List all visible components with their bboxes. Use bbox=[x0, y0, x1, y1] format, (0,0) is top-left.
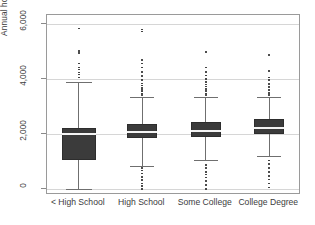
outlier-point bbox=[78, 67, 80, 69]
outlier-point-low bbox=[268, 179, 270, 181]
outlier-point-low bbox=[141, 185, 143, 187]
boxplot-figure: Annual hours worked by education 02,0004… bbox=[0, 0, 315, 225]
whisker-cap-low bbox=[194, 160, 218, 161]
x-tick-label-4: College Degree bbox=[231, 197, 307, 207]
outlier-point-low bbox=[268, 171, 270, 173]
outlier-point bbox=[268, 89, 270, 91]
y-tick-text: 4,000 bbox=[19, 65, 28, 86]
median-line bbox=[127, 131, 157, 133]
outlier-point-low bbox=[141, 173, 143, 175]
outlier-point bbox=[141, 75, 143, 77]
outlier-point bbox=[268, 70, 270, 72]
outlier-point-low bbox=[205, 164, 207, 166]
y-tick-label-4000: 4,000 bbox=[6, 71, 40, 80]
outlier-point bbox=[205, 88, 207, 90]
outlier-point bbox=[141, 89, 143, 91]
boxplot-4 bbox=[238, 15, 302, 193]
outlier-point bbox=[141, 87, 143, 89]
outlier-point-low bbox=[141, 167, 143, 169]
outlier-point bbox=[141, 67, 143, 69]
outlier-point bbox=[141, 79, 143, 81]
outlier-point-low bbox=[205, 180, 207, 182]
outlier-point bbox=[205, 94, 207, 96]
outlier-point bbox=[141, 63, 143, 65]
outlier-point bbox=[141, 83, 143, 85]
boxplot-3 bbox=[174, 15, 238, 193]
outlier-point-low bbox=[141, 183, 143, 185]
outlier-point bbox=[268, 79, 270, 81]
outlier-point bbox=[78, 72, 80, 74]
y-tick-label-2000: 2,000 bbox=[6, 126, 40, 135]
boxplot-1 bbox=[47, 15, 111, 193]
outlier-point bbox=[268, 54, 270, 56]
whisker-cap-high bbox=[194, 97, 218, 98]
boxplot-2 bbox=[111, 15, 175, 193]
outlier-point bbox=[205, 71, 207, 73]
y-tick-text: 6,000 bbox=[19, 10, 28, 31]
outlier-point bbox=[78, 50, 80, 52]
outlier-point bbox=[205, 93, 207, 95]
outlier-point bbox=[205, 90, 207, 92]
outlier-point bbox=[141, 71, 143, 73]
outlier-point bbox=[268, 77, 270, 79]
outlier-point bbox=[141, 31, 143, 33]
outlier-point-low bbox=[141, 179, 143, 181]
outlier-point bbox=[78, 77, 80, 79]
y-tick-label-0: 0 bbox=[6, 181, 40, 190]
median-line bbox=[191, 130, 221, 132]
outlier-point-low bbox=[141, 188, 143, 190]
outlier-point-low bbox=[205, 174, 207, 176]
outlier-point-low bbox=[141, 170, 143, 172]
outlier-point bbox=[78, 52, 80, 54]
plot-area bbox=[46, 14, 300, 194]
outlier-point-low bbox=[205, 177, 207, 179]
outlier-point bbox=[268, 92, 270, 94]
median-line bbox=[62, 133, 96, 135]
outlier-point bbox=[78, 63, 80, 65]
outlier-point bbox=[78, 69, 80, 71]
whisker-cap-high bbox=[66, 82, 92, 83]
outlier-point-low bbox=[268, 183, 270, 185]
outlier-point-low bbox=[205, 171, 207, 173]
outlier-point-low bbox=[268, 175, 270, 177]
outlier-point-low bbox=[268, 160, 270, 162]
outlier-point bbox=[141, 93, 143, 95]
y-tick-text: 2,000 bbox=[19, 120, 28, 141]
outlier-point-low bbox=[205, 188, 207, 190]
outlier-point bbox=[78, 28, 80, 30]
outlier-point-low bbox=[205, 184, 207, 186]
y-tick-text: 0 bbox=[19, 183, 28, 188]
outlier-point bbox=[268, 94, 270, 96]
median-line bbox=[254, 127, 284, 129]
outlier-point bbox=[268, 83, 270, 85]
outlier-point-low bbox=[141, 176, 143, 178]
outlier-point bbox=[141, 94, 143, 96]
whisker-cap-high bbox=[130, 97, 154, 98]
whisker-cap-high bbox=[257, 97, 281, 98]
outlier-point-low bbox=[268, 187, 270, 189]
whisker-cap-low bbox=[257, 156, 281, 157]
outlier-point bbox=[205, 81, 207, 83]
outlier-point bbox=[268, 86, 270, 88]
outlier-point bbox=[78, 74, 80, 76]
outlier-point bbox=[141, 59, 143, 61]
outlier-point bbox=[205, 51, 207, 53]
outlier-point-low bbox=[268, 167, 270, 169]
outlier-point-low bbox=[268, 163, 270, 165]
outlier-point bbox=[205, 78, 207, 80]
outlier-point bbox=[205, 75, 207, 77]
y-tick-label-6000: 6,000 bbox=[6, 16, 40, 25]
whisker-cap-low bbox=[66, 189, 92, 190]
outlier-point bbox=[205, 67, 207, 69]
outlier-point-low bbox=[205, 167, 207, 169]
